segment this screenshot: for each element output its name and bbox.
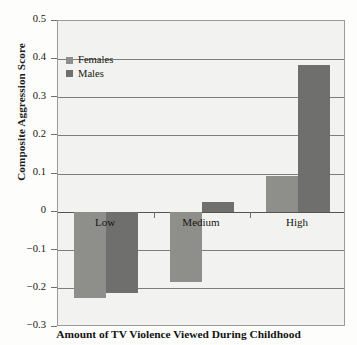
legend-swatch-males-icon xyxy=(66,70,73,77)
y-axis-tick-label: 0 xyxy=(6,204,46,215)
y-axis-tick xyxy=(51,96,57,97)
legend-label-males: Males xyxy=(78,69,104,80)
y-axis-tick xyxy=(51,287,57,288)
category-label-medium: Medium xyxy=(151,216,251,228)
legend-label-females: Females xyxy=(78,55,113,66)
y-axis-tick-label: −0.2 xyxy=(6,281,46,292)
bar-high-females xyxy=(266,176,298,212)
chart-legend: Females Males xyxy=(66,55,113,79)
y-axis-tick-label: 0.5 xyxy=(6,13,46,24)
y-axis-tick xyxy=(51,211,57,212)
category-label-high: High xyxy=(247,216,347,228)
y-axis-tick-label: 0.2 xyxy=(6,128,46,139)
chart-figure: Composite Aggression Score 0.50.40.30.20… xyxy=(0,0,357,345)
bar-high-males xyxy=(298,65,330,212)
bar-medium-males xyxy=(202,202,234,212)
y-axis-tick-label: −0.1 xyxy=(6,243,46,254)
y-axis-tick xyxy=(51,326,57,327)
legend-swatch-females-icon xyxy=(66,57,73,64)
y-axis-tick-label: 0.1 xyxy=(6,166,46,177)
legend-item-females: Females xyxy=(66,55,113,66)
y-axis-tick xyxy=(51,249,57,250)
y-axis-tick xyxy=(51,20,57,21)
y-axis-tick-label: 0.3 xyxy=(6,90,46,101)
y-axis-tick xyxy=(51,173,57,174)
y-axis-tick xyxy=(51,58,57,59)
category-label-low: Low xyxy=(55,216,155,228)
y-axis-tick-label: 0.4 xyxy=(6,51,46,62)
x-axis-title: Amount of TV Violence Viewed During Chil… xyxy=(0,328,357,340)
y-axis-tick xyxy=(51,134,57,135)
legend-item-males: Males xyxy=(66,69,113,80)
